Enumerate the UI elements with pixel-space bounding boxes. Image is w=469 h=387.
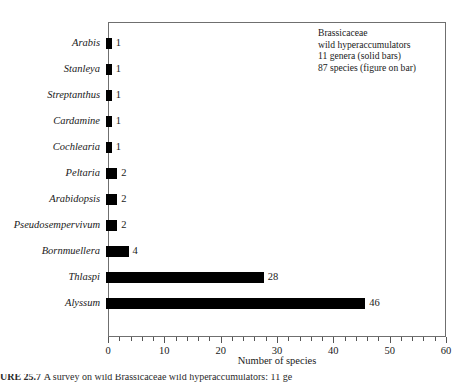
axis-tick-minor bbox=[288, 337, 289, 341]
axis-tick-minor bbox=[198, 337, 199, 341]
axis-tick-minor bbox=[243, 337, 244, 341]
bar-row: Cochlearia1 bbox=[0, 134, 469, 160]
bar-value-label: 1 bbox=[116, 142, 121, 153]
bar bbox=[106, 142, 112, 153]
axis-tick-major bbox=[446, 337, 447, 343]
axis-tick-minor bbox=[266, 337, 267, 341]
axis-tick-minor bbox=[311, 337, 312, 341]
axis-tick-major bbox=[108, 337, 109, 343]
axis-tick-minor bbox=[119, 337, 120, 341]
figure-caption-text: URE 25.7 A survey on wild Brassicaceae w… bbox=[0, 374, 292, 382]
annotation-line: 11 genera (solid bars) bbox=[318, 50, 446, 62]
bar-value-label: 1 bbox=[116, 64, 121, 75]
bar bbox=[106, 38, 112, 49]
bar-track: 46 bbox=[106, 290, 444, 316]
figure-caption: URE 25.7 A survey on wild Brassicaceae w… bbox=[0, 374, 469, 387]
bar-category-label: Thlaspi bbox=[0, 272, 106, 283]
bar-value-label: 2 bbox=[121, 220, 126, 231]
axis-tick-minor bbox=[209, 337, 210, 341]
axis-tick-minor bbox=[322, 337, 323, 341]
chart-annotation: Brassicaceaewild hyperaccumulators11 gen… bbox=[318, 27, 446, 73]
bar bbox=[106, 90, 112, 101]
axis-tick-minor bbox=[176, 337, 177, 341]
bar-track: 1 bbox=[106, 108, 444, 134]
bar-row: Streptanthus1 bbox=[0, 82, 469, 108]
annotation-line: wild hyperaccumulators bbox=[318, 39, 446, 51]
annotation-line: 87 species (figure on bar) bbox=[318, 62, 446, 74]
bar-track: 2 bbox=[106, 186, 444, 212]
axis-tick-major bbox=[221, 337, 222, 343]
bar-row: Pseudosempervivum2 bbox=[0, 212, 469, 238]
bar-value-label: 4 bbox=[133, 246, 138, 257]
bar bbox=[106, 64, 112, 75]
bar-track: 2 bbox=[106, 212, 444, 238]
axis-tick-major bbox=[164, 337, 165, 343]
bar-value-label: 2 bbox=[121, 194, 126, 205]
bar-row: Arabidopsis2 bbox=[0, 186, 469, 212]
bar-value-label: 1 bbox=[116, 90, 121, 101]
bar-track: 4 bbox=[106, 238, 444, 264]
axis-tick-major bbox=[277, 337, 278, 343]
axis-tick-minor bbox=[254, 337, 255, 341]
bar-track: 1 bbox=[106, 82, 444, 108]
bar-track: 2 bbox=[106, 160, 444, 186]
bar-value-label: 28 bbox=[268, 272, 279, 283]
x-axis-label: Number of species bbox=[108, 355, 446, 366]
axis-tick-minor bbox=[300, 337, 301, 341]
bar-track: 28 bbox=[106, 264, 444, 290]
axis-tick-minor bbox=[345, 337, 346, 341]
bar-row: Thlaspi28 bbox=[0, 264, 469, 290]
bar-row: Cardamine1 bbox=[0, 108, 469, 134]
bar-value-label: 1 bbox=[116, 116, 121, 127]
bar-row: Bornmuellera4 bbox=[0, 238, 469, 264]
axis-tick-minor bbox=[131, 337, 132, 341]
axis-tick-minor bbox=[412, 337, 413, 341]
axis-tick-minor bbox=[356, 337, 357, 341]
axis-tick-minor bbox=[423, 337, 424, 341]
bar-row: Peltaria2 bbox=[0, 160, 469, 186]
bar-category-label: Arabis bbox=[0, 38, 106, 49]
bar bbox=[106, 116, 112, 127]
bar-category-label: Bornmuellera bbox=[0, 246, 106, 257]
bar-category-label: Pseudosempervivum bbox=[0, 220, 106, 231]
bar bbox=[106, 194, 117, 205]
axis-tick-minor bbox=[378, 337, 379, 341]
bar-track: 1 bbox=[106, 134, 444, 160]
bar-category-label: Stanleya bbox=[0, 64, 106, 75]
bar-category-label: Arabidopsis bbox=[0, 194, 106, 205]
bar-value-label: 46 bbox=[369, 298, 380, 309]
axis-tick-minor bbox=[401, 337, 402, 341]
bar bbox=[106, 298, 365, 309]
axis-tick-major bbox=[390, 337, 391, 343]
axis-tick-minor bbox=[142, 337, 143, 341]
bar bbox=[106, 220, 117, 231]
annotation-line: Brassicaceae bbox=[318, 27, 446, 39]
bar bbox=[106, 246, 129, 257]
bar bbox=[106, 272, 264, 283]
axis-tick-minor bbox=[435, 337, 436, 341]
bar-category-label: Streptanthus bbox=[0, 90, 106, 101]
axis-tick-minor bbox=[187, 337, 188, 341]
bar bbox=[106, 168, 117, 179]
bar-value-label: 2 bbox=[121, 168, 126, 179]
axis-tick-minor bbox=[153, 337, 154, 341]
bar-row: Alyssum46 bbox=[0, 290, 469, 316]
axis-tick-minor bbox=[367, 337, 368, 341]
bar-category-label: Peltaria bbox=[0, 168, 106, 179]
bar-category-label: Cardamine bbox=[0, 116, 106, 127]
axis-tick-minor bbox=[232, 337, 233, 341]
axis-tick-major bbox=[333, 337, 334, 343]
bar-category-label: Cochlearia bbox=[0, 142, 106, 153]
figure-bar-chart: Arabis1Stanleya1Streptanthus1Cardamine1C… bbox=[0, 0, 469, 387]
bar-value-label: 1 bbox=[116, 38, 121, 49]
bar-category-label: Alyssum bbox=[0, 298, 106, 309]
